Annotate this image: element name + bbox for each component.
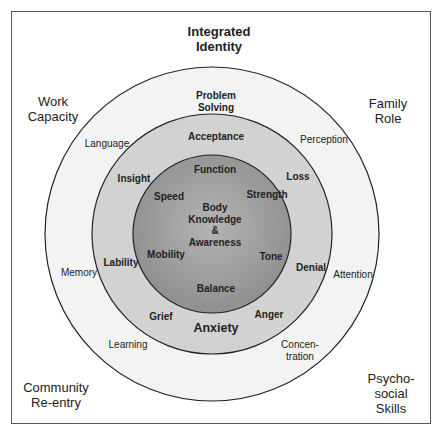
outer-ring-attention: Attention — [333, 269, 372, 281]
inner-balance: Balance — [197, 283, 235, 295]
outer-ring-concentration: Concen- tration — [281, 339, 319, 362]
outer-ring-memory: Memory — [61, 267, 97, 279]
inner-function: Function — [194, 164, 236, 176]
middle-ring-denial: Denial — [296, 262, 326, 274]
inner-speed: Speed — [154, 191, 184, 203]
middle-ring-insight: Insight — [118, 173, 151, 185]
inner-mobility: Mobility — [147, 249, 185, 261]
middle-ring-grief: Grief — [149, 311, 172, 323]
middle-ring-anger: Anger — [255, 309, 284, 321]
outer-ring-language: Language — [85, 138, 130, 150]
outer-ring-problem-solving: Problem Solving — [196, 90, 236, 113]
middle-ring-lability: Lability — [103, 257, 138, 269]
middle-ring-anxiety: Anxiety — [193, 321, 238, 335]
middle-ring-loss: Loss — [286, 171, 309, 183]
outer-ring-perception: Perception — [300, 134, 348, 146]
corner-community-reentry: Community Re-entry — [23, 381, 89, 411]
inner-strength: Strength — [246, 189, 287, 201]
corner-psychosocial-skills: Psycho- social Skills — [368, 372, 415, 417]
corner-work-capacity: Work Capacity — [28, 95, 79, 125]
inner-body-knowledge-awareness: Body Knowledge & Awareness — [188, 202, 241, 248]
title-integrated-identity: Integrated Identity — [188, 25, 251, 55]
corner-family-role: Family Role — [369, 97, 407, 127]
inner-tone: Tone — [259, 251, 282, 263]
outer-ring-learning: Learning — [109, 339, 148, 351]
middle-ring-acceptance: Acceptance — [188, 131, 244, 143]
